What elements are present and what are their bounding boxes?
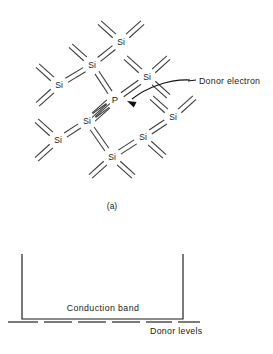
dangling-bond-line [89, 161, 104, 174]
dangling-bond-line [35, 144, 50, 157]
dangling-bond-line [35, 122, 50, 135]
covalent-bond-line [152, 124, 167, 134]
covalent-bond-line [95, 74, 108, 94]
silicon-atom-label: Si [169, 112, 177, 122]
dangling-bond-line [101, 21, 116, 34]
silicon-atom-label: Si [54, 135, 62, 145]
dangling-bond-line [127, 56, 142, 69]
dangling-bond-line [152, 56, 167, 69]
dangling-bond-line [181, 99, 196, 112]
covalent-bond-line [90, 130, 105, 151]
covalent-bond-line [121, 80, 138, 93]
dangling-bond-line [178, 96, 193, 109]
dangling-bond-line [72, 44, 87, 57]
dangling-bond-line [39, 93, 54, 106]
dangling-bond-line [117, 165, 132, 178]
covalent-bond-line [68, 72, 86, 83]
conduction-band-label: Conduction band [67, 303, 140, 313]
donor-electron-arrow-icon [132, 80, 190, 99]
covalent-bond-line [99, 71, 112, 91]
dangling-bond-line [98, 24, 113, 37]
dangling-bond-line [150, 99, 165, 112]
lattice-atom-group: SiSiSiSiPSiSiSiSiSi [52, 36, 179, 163]
figure-container: SiSiSiSiPSiSiSiSiSi Donor electron (a) C… [0, 0, 273, 354]
dangling-bond-line [124, 59, 139, 72]
dangling-bond-line [38, 119, 53, 132]
covalent-bond-line [101, 49, 116, 61]
dangling-bond-line [92, 165, 107, 178]
silicon-atom-label: Si [55, 80, 63, 90]
dangling-bond-line [155, 59, 170, 72]
silicon-atom-label: Si [108, 152, 116, 162]
dangling-bond-line [39, 64, 54, 77]
silicon-atom-label: Si [88, 60, 96, 70]
covalent-bond-line [65, 68, 83, 79]
covalent-bond-line [149, 120, 164, 130]
covalent-bond-line [121, 144, 137, 154]
covalent-bond-line [64, 124, 78, 133]
dangling-bond-line [36, 67, 51, 80]
dangling-bond-line [36, 89, 51, 102]
band-diagram-group: Conduction band Donor levels [8, 254, 203, 336]
donor-electron-label: Donor electron [199, 76, 260, 86]
covalent-bond-line [94, 127, 109, 148]
donor-levels-label: Donor levels [150, 326, 203, 336]
dangling-bond-line [69, 47, 84, 60]
doped-semiconductor-figure: SiSiSiSiPSiSiSiSiSi Donor electron (a) C… [0, 0, 273, 354]
dangling-bond-line [126, 21, 141, 34]
covalent-bond-line [98, 46, 113, 58]
arrowhead-icon [127, 101, 136, 108]
covalent-bond-line [118, 140, 134, 150]
covalent-bond-line [67, 128, 81, 137]
dangling-bond-line [148, 145, 163, 158]
silicon-atom-label: Si [139, 132, 147, 142]
silicon-atom-label: Si [143, 72, 151, 82]
dopant-atom-label: P [112, 94, 118, 105]
dangling-bond-line [151, 141, 166, 154]
silicon-atom-label: Si [83, 116, 91, 126]
dangling-bond-line [129, 24, 144, 37]
silicon-atom-label: Si [117, 37, 125, 47]
dangling-bond-line [120, 161, 135, 174]
panel-a-caption: (a) [107, 201, 118, 211]
dangling-bond-line [38, 148, 53, 161]
